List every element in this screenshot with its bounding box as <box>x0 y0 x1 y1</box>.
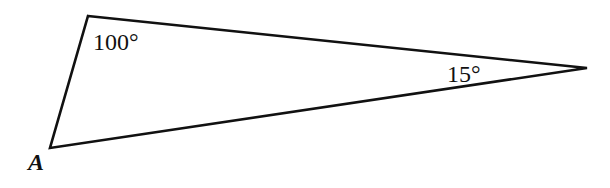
triangle-diagram: 100° 15° A <box>0 0 610 188</box>
top-angle-label: 100° <box>93 29 139 55</box>
vertex-a-label: A <box>26 149 44 175</box>
right-angle-label: 15° <box>447 61 481 87</box>
